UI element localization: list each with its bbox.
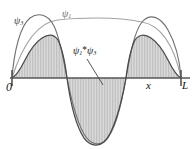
x-axis-label: x bbox=[146, 80, 151, 91]
well-width-label: L bbox=[182, 80, 188, 91]
figure-canvas bbox=[0, 0, 196, 149]
origin-label: 0 bbox=[6, 81, 12, 93]
product-label: ψ1*ψ3 bbox=[73, 46, 96, 56]
product-fill-center-lobe bbox=[67, 78, 126, 145]
psi1-label: ψ1 bbox=[62, 9, 71, 19]
wavefunction-product-figure: ψ3 ψ1 ψ1*ψ3 0 x L bbox=[0, 0, 196, 149]
psi3-label: ψ3 bbox=[14, 16, 23, 26]
